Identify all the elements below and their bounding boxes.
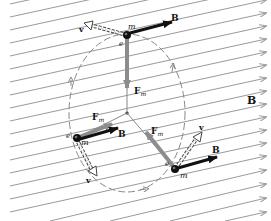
b-arrow [130, 22, 172, 33]
charge-label: e [119, 40, 123, 48]
force-label: Fm [151, 126, 163, 137]
particle [171, 165, 179, 173]
magnetic-field-lines [10, 0, 266, 221]
diagram-canvas: B m e B v Fm [0, 0, 271, 221]
magnetic-field-diagram: B m e B v Fm [0, 0, 271, 221]
particle [123, 31, 131, 39]
velocity-arrowhead-icon [84, 21, 93, 30]
velocity-label: v [85, 175, 91, 185]
orbit-direction-arrow [172, 66, 173, 72]
b-label: B [171, 13, 179, 23]
velocity-label: v [78, 24, 84, 34]
particle [73, 134, 81, 142]
particle-right: m e B v Fm [146, 122, 220, 180]
orbit-direction-arrow [140, 189, 146, 190]
b-label: B [118, 129, 126, 139]
field-label: B [247, 94, 256, 107]
charge-label: e [165, 160, 169, 168]
velocity-label: v [198, 122, 204, 132]
mass-label: m [81, 138, 89, 147]
mass-label: m [128, 22, 136, 31]
mass-label: m [180, 171, 188, 180]
charge-label: e [66, 132, 70, 140]
particle-top: m e B v Fm [78, 13, 179, 97]
b-label: B [212, 145, 220, 155]
b-arrow [178, 157, 217, 168]
force-label: Fm [134, 86, 146, 97]
